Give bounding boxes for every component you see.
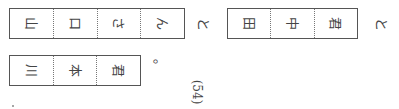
name-cell: ん <box>140 9 184 38</box>
connector-to-1: と <box>194 12 212 36</box>
name-box-kawamoto-kun: 川 本 君 <box>9 55 141 86</box>
period-mark: 。 <box>150 56 168 74</box>
name-char: 君 <box>112 64 125 77</box>
figure-number: (54) <box>176 78 218 106</box>
name-cell: 口 <box>53 9 97 38</box>
name-char: ん <box>156 17 169 30</box>
name-cell: 本 <box>53 56 97 85</box>
connector-to-2: と <box>372 12 390 36</box>
name-cell: 田 <box>228 9 270 38</box>
name-cell: 中 <box>270 9 313 38</box>
figure-number-text: (54) <box>191 80 203 105</box>
name-char: 川 <box>25 64 38 77</box>
name-char: さ <box>112 17 125 30</box>
name-cell: 山 <box>10 9 53 38</box>
connector-char: と <box>197 18 210 31</box>
name-cell: 君 <box>96 56 140 85</box>
name-cell: 君 <box>314 9 357 38</box>
name-char: 君 <box>329 17 342 30</box>
name-cell: 川 <box>10 56 53 85</box>
name-cell: さ <box>97 9 141 38</box>
name-box-tanaka-kun: 田 中 君 <box>227 8 358 39</box>
name-char: 口 <box>69 17 82 30</box>
name-box-yamaguchi-san: 山 口 さ ん <box>9 8 185 39</box>
name-char: 田 <box>243 17 256 30</box>
stray-dot <box>12 105 14 107</box>
connector-char: と <box>375 18 388 31</box>
name-char: 山 <box>25 17 38 30</box>
period-char: 。 <box>153 59 166 72</box>
name-char: 中 <box>286 17 299 30</box>
name-char: 本 <box>69 64 82 77</box>
